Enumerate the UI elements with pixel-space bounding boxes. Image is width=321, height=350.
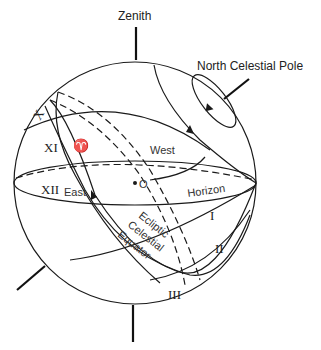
observer-label: O	[139, 178, 148, 190]
horizon-back	[14, 161, 256, 183]
ncp-arrow-icon	[203, 102, 213, 112]
ncp-axis	[224, 79, 249, 99]
east-label: East	[64, 186, 86, 198]
horizon-label: Horizon	[187, 182, 226, 199]
lower-arc-1	[70, 185, 256, 260]
west-label: West	[150, 144, 175, 156]
hour-marker-XI: XI	[44, 140, 58, 155]
observer-dot	[133, 181, 137, 185]
vernal-equinox-symbol: ♈	[73, 138, 89, 153]
west-arc	[150, 157, 205, 180]
hour-marker-XII: XII	[41, 182, 59, 197]
hour-marker-III: III	[168, 287, 181, 302]
scp-axis	[17, 266, 45, 290]
ncp-circle	[185, 68, 243, 133]
celestial-sphere-diagram: Zenith North Celestial Pole West East Ho…	[0, 0, 321, 350]
ncp-label: North Celestial Pole	[197, 59, 303, 73]
hour-marker-II: II	[215, 241, 224, 256]
zenith-label: Zenith	[118, 9, 151, 23]
hour-marker-I: I	[210, 208, 214, 223]
